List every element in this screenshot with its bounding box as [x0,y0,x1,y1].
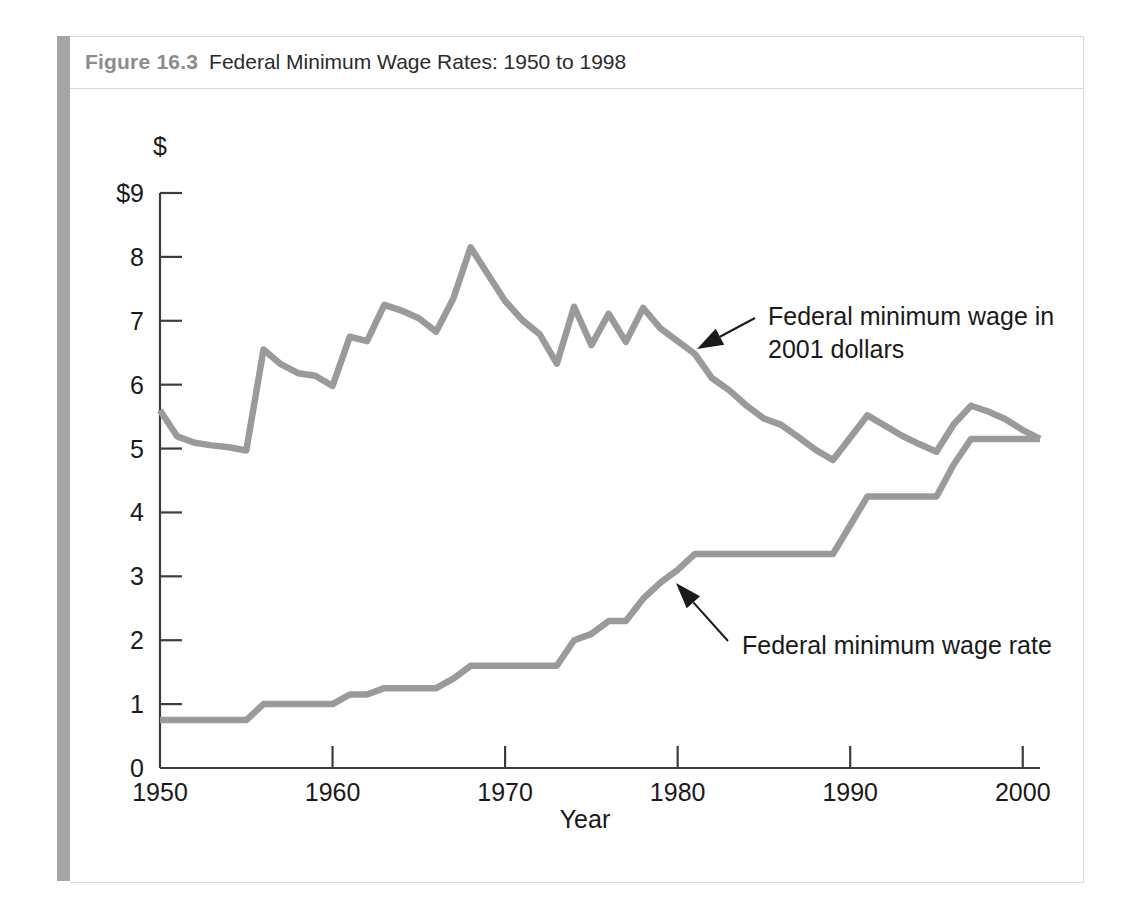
y-tick-label: 8 [130,243,144,271]
series-line-real [160,247,1040,460]
annotation-real-arrow [697,318,755,349]
x-axis-title: Year [560,805,611,833]
y-tick-label: 6 [130,371,144,399]
annotation-real-line1: Federal minimum wage in [768,302,1054,330]
y-tick-label: 2 [130,626,144,654]
x-tick-label: 1960 [305,778,361,806]
series-line-nominal [160,439,1040,720]
figure-root: Figure 16.3 Federal Minimum Wage Rates: … [0,0,1121,913]
y-tick-label: 5 [130,435,144,463]
annotation-real-arrow-leader [720,318,755,337]
annotation-nominal-arrow [676,583,728,641]
y-tick-label: 4 [130,498,144,526]
annotation-nominal-arrow-leader [693,602,728,641]
chart-annotations: Federal minimum wage in2001 dollarsFeder… [676,302,1054,659]
y-tick-label: $9 [116,179,144,207]
x-tick-label: 1980 [650,778,706,806]
x-tick-label: 2000 [995,778,1051,806]
x-axis: 195019601970198019902000 [132,746,1050,806]
annotation-real-line2: 2001 dollars [768,335,904,363]
y-axis-unit-label: $ [153,132,167,160]
x-tick-label: 1950 [132,778,188,806]
x-tick-label: 1970 [477,778,533,806]
chart-canvas: 012345678$9 195019601970198019902000 Fed… [0,0,1121,913]
y-tick-label: 1 [130,690,144,718]
y-tick-label: 3 [130,562,144,590]
annotation-nominal-line1: Federal minimum wage rate [742,631,1052,659]
x-tick-label: 1990 [822,778,878,806]
annotation-real-arrow-head [697,329,724,349]
y-axis: 012345678$9 [116,179,182,782]
y-tick-label: 7 [130,307,144,335]
